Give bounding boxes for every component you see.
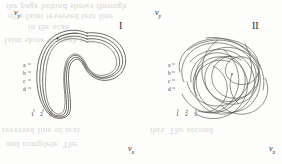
- panel-II-ytick-b: b: [168, 71, 171, 77]
- panel-II-ytick-d: d: [168, 87, 171, 93]
- panel-I-x-axis-label: vx: [128, 145, 134, 155]
- panel-II-x-axis-label: vx: [269, 145, 275, 155]
- phase-space-figure: the page behind shows through of a faint…: [0, 0, 282, 164]
- panel-I-ytick-a: a: [23, 63, 25, 69]
- ghost-text-line-6: and complete. The: [6, 140, 78, 150]
- panel-I-ytick-d: d: [23, 87, 26, 93]
- ghost-text-line-1: the page behind shows through: [6, 2, 127, 12]
- panel-II-trajectory: [172, 26, 280, 126]
- panel-I-ytick-b: b: [23, 71, 26, 77]
- panel-II-y-axis-label: vy: [155, 9, 161, 19]
- panel-II-ytick-a: a: [168, 63, 170, 69]
- panel-I-ytick-c: c: [23, 79, 25, 85]
- panel-II-ytick-c: c: [168, 79, 170, 85]
- ghost-text-line-5: reversed line of text: [2, 126, 80, 136]
- ghost-text-line-7: this. The second: [150, 126, 213, 136]
- panel-I-y-axis-label: vy: [14, 9, 20, 19]
- ghost-text-line-2: of a faint reversed text line: [8, 12, 113, 22]
- panel-I-trajectory: [28, 24, 132, 124]
